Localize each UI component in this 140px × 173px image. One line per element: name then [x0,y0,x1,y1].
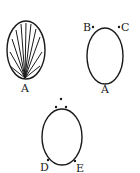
fig2-point-c [118,26,120,28]
fig1-fan-lines [10,23,42,78]
fig3-oval [42,109,82,165]
fig1-label-a: A [20,82,30,95]
fig2-label-c: C [121,21,129,34]
figure-3: D E [40,98,84,173]
figure-2: B C A [83,21,129,96]
fig2-label-b: B [83,21,91,34]
fig3-dot-top [60,98,62,100]
fig3-dot-left [55,106,57,108]
fig2-oval [87,28,123,84]
figure-1: A [7,21,45,95]
fig3-label-e: E [76,162,84,173]
fig3-label-d: D [40,161,49,173]
fig2-point-b [92,26,94,28]
diagram-canvas: A B C A D E [0,0,140,173]
fig3-dot-right [65,106,67,108]
fig2-label-a: A [100,83,110,96]
